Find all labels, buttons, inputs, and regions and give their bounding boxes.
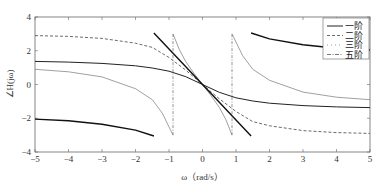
x-tick-label: 0 — [200, 154, 205, 164]
legend-label-3: 三阶 — [345, 39, 363, 50]
y-tick-label: 4 — [27, 12, 32, 22]
y-axis-label: ∠H(jω) — [5, 70, 15, 99]
phase-response-chart: −5−4−3−2−1012345−4−2024 ω（rad/s） ∠H(jω) … — [0, 0, 380, 186]
y-tick-label: 0 — [27, 80, 32, 90]
y-tick-label: 2 — [27, 46, 32, 56]
x-axis-label: ω（rad/s） — [181, 172, 222, 182]
x-tick-label: 4 — [334, 154, 339, 164]
x-tick-label: 5 — [368, 154, 373, 164]
y-tick-label: −4 — [21, 147, 31, 157]
legend-label-1: 一阶 — [345, 20, 363, 31]
legend: 一阶 二阶 三阶 五阶 — [323, 18, 369, 60]
y-tick-label: −2 — [21, 113, 31, 123]
x-tick-label: 2 — [267, 154, 272, 164]
x-tick-label: −1 — [164, 154, 174, 164]
legend-label-4: 五阶 — [345, 49, 363, 60]
x-tick-label: 1 — [234, 154, 239, 164]
x-tick-label: −3 — [97, 154, 107, 164]
x-tick-label: −5 — [30, 154, 40, 164]
x-tick-label: −4 — [64, 154, 74, 164]
x-tick-label: 3 — [301, 154, 306, 164]
legend-label-2: 二阶 — [345, 30, 363, 41]
x-tick-label: −2 — [131, 154, 141, 164]
